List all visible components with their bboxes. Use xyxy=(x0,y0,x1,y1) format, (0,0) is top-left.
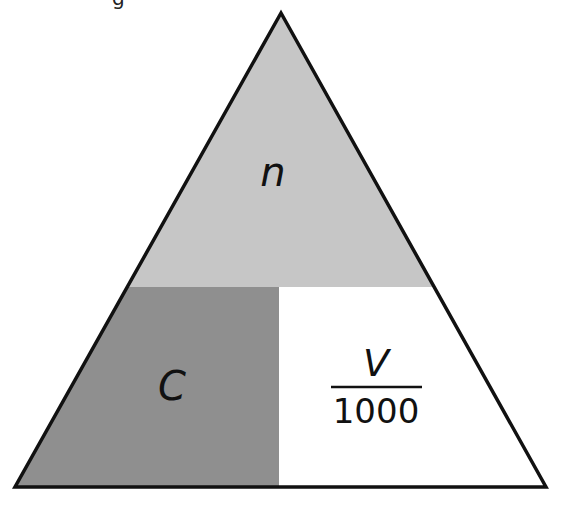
label-denominator-1000: 1000 xyxy=(333,391,420,431)
label-numerator-v: V xyxy=(363,341,392,385)
label-n: n xyxy=(260,149,285,195)
region-bottom-left xyxy=(15,287,279,487)
label-c: C xyxy=(158,363,186,409)
formula-triangle: n C V 1000 xyxy=(0,0,572,519)
